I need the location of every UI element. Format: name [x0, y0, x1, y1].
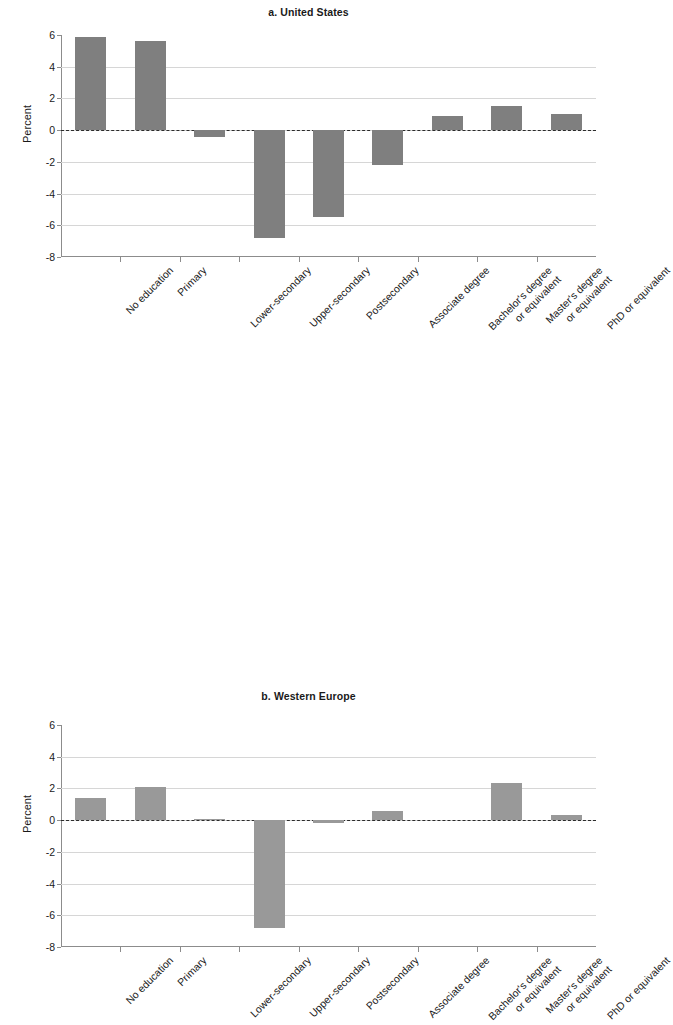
bar: [491, 783, 522, 820]
y-tick-label: 0: [49, 814, 55, 826]
gridline: [61, 852, 596, 853]
x-tick-label: No education: [123, 954, 176, 1007]
y-tick-mark: [57, 915, 61, 916]
x-tick-label: Associate degree: [426, 264, 492, 330]
bar: [254, 130, 285, 238]
x-tick-label-line: No education: [123, 264, 176, 317]
x-tick-label: Primary: [175, 954, 209, 988]
chart-a-plot-area: 6420-2-4-6-8: [61, 35, 596, 257]
bar: [432, 116, 463, 130]
chart-b-plot-area: 6420-2-4-6-8: [61, 725, 596, 947]
chart-a-x-tick-labels: No educationPrimaryLower-secondaryUpper-…: [61, 258, 596, 336]
y-tick-mark: [57, 884, 61, 885]
bar: [313, 820, 344, 823]
y-tick-mark: [57, 225, 61, 226]
y-tick-mark: [57, 852, 61, 853]
bar: [75, 798, 106, 820]
y-tick-label: -2: [46, 846, 55, 858]
x-tick-label-line: PhD or equivalent: [605, 264, 673, 332]
y-tick-mark: [57, 98, 61, 99]
y-tick-mark: [57, 35, 61, 36]
gridline: [61, 757, 596, 758]
bar: [372, 130, 403, 165]
bar: [135, 41, 166, 130]
x-tick-label: Lower-secondary: [247, 264, 313, 330]
bar: [254, 820, 285, 928]
y-tick-mark: [57, 725, 61, 726]
y-tick-label: -8: [46, 251, 55, 263]
chart-panel-western-europe: b. Western Europe Percent 6420-2-4-6-8 N…: [0, 340, 617, 705]
x-tick-label-line: No education: [123, 954, 176, 1007]
x-tick-label-line: Upper-secondary: [307, 264, 373, 330]
y-tick-label: 2: [49, 782, 55, 794]
bar: [551, 114, 582, 130]
chart-b-x-axis: [61, 946, 596, 947]
x-tick-label-line: Primary: [175, 954, 209, 988]
chart-a-title: a. United States: [0, 6, 617, 18]
y-tick-label: 0: [49, 124, 55, 136]
y-tick-label: -8: [46, 941, 55, 953]
bar: [491, 106, 522, 130]
x-tick-label-line: Upper-secondary: [307, 954, 373, 1020]
x-tick-label: Primary: [175, 264, 209, 298]
chart-b-title: b. Western Europe: [0, 690, 617, 702]
bar: [551, 815, 582, 821]
chart-a-y-axis: [61, 35, 62, 257]
y-tick-mark: [57, 757, 61, 758]
chart-a-y-axis-label: Percent: [21, 94, 33, 154]
bar: [75, 37, 106, 131]
bar: [372, 811, 403, 821]
bar: [194, 130, 225, 137]
x-tick-label-line: Associate degree: [426, 954, 492, 1020]
y-tick-mark: [57, 67, 61, 68]
y-tick-mark: [57, 194, 61, 195]
y-tick-label: -6: [46, 219, 55, 231]
x-tick-label-line: PhD or equivalent: [605, 954, 673, 1022]
chart-b-y-axis-label: Percent: [21, 784, 33, 844]
x-tick-label: Upper-secondary: [307, 264, 373, 330]
y-tick-mark: [57, 788, 61, 789]
x-tick-label-line: Lower-secondary: [247, 954, 313, 1020]
chart-b-y-axis: [61, 725, 62, 947]
x-tick-label: Lower-secondary: [247, 954, 313, 1020]
gridline: [61, 915, 596, 916]
bar: [194, 819, 225, 820]
bar: [313, 130, 344, 217]
y-tick-label: -4: [46, 878, 55, 890]
y-tick-mark: [57, 162, 61, 163]
gridline: [61, 884, 596, 885]
x-tick-label-line: Lower-secondary: [247, 264, 313, 330]
y-tick-label: 4: [49, 61, 55, 73]
chart-a-x-axis: [61, 256, 596, 257]
x-tick-label: PhD or equivalent: [605, 264, 673, 332]
y-tick-label: -2: [46, 156, 55, 168]
y-tick-label: 4: [49, 751, 55, 763]
gridline: [61, 225, 596, 226]
bar: [135, 787, 166, 820]
x-tick-label: Associate degree: [426, 954, 492, 1020]
x-tick-label: No education: [123, 264, 176, 317]
x-tick-label: Bachelor's degreeor equivalent: [486, 264, 563, 341]
chart-b-x-tick-labels: No educationPrimaryLower-secondaryUpper-…: [61, 948, 596, 1025]
y-tick-label: -4: [46, 188, 55, 200]
x-tick-label-line: Primary: [175, 264, 209, 298]
x-tick-label: Upper-secondary: [307, 954, 373, 1020]
y-tick-label: 6: [49, 29, 55, 41]
x-tick-label-line: Associate degree: [426, 264, 492, 330]
y-tick-label: 2: [49, 92, 55, 104]
y-tick-label: 6: [49, 719, 55, 731]
x-tick-label: PhD or equivalent: [605, 954, 673, 1022]
chart-panel-united-states: a. United States Percent 6420-2-4-6-8 No…: [0, 0, 617, 340]
y-tick-label: -6: [46, 909, 55, 921]
